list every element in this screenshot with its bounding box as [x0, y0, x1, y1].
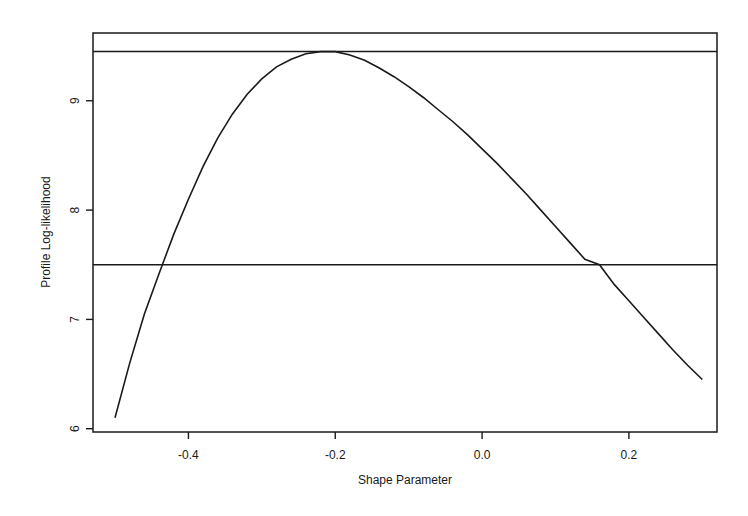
- profile-likelihood-chart: -0.4-0.20.00.2 6789 Shape Parameter Prof…: [0, 0, 748, 516]
- x-axis-ticks: -0.4-0.20.00.2: [178, 432, 637, 462]
- x-axis-title: Shape Parameter: [358, 473, 452, 487]
- y-tick-label: 7: [68, 316, 82, 323]
- x-tick-label: 0.2: [621, 448, 638, 462]
- y-axis-ticks: 6789: [68, 97, 93, 432]
- y-tick-label: 8: [68, 206, 82, 213]
- x-tick-label: -0.4: [178, 448, 199, 462]
- y-tick-label: 9: [68, 97, 82, 104]
- likelihood-curve: [115, 52, 702, 418]
- y-tick-label: 6: [68, 425, 82, 432]
- y-axis-title: Profile Log-likelihood: [39, 176, 53, 287]
- x-tick-label: 0.0: [474, 448, 491, 462]
- x-tick-label: -0.2: [325, 448, 346, 462]
- plot-frame: [93, 33, 717, 432]
